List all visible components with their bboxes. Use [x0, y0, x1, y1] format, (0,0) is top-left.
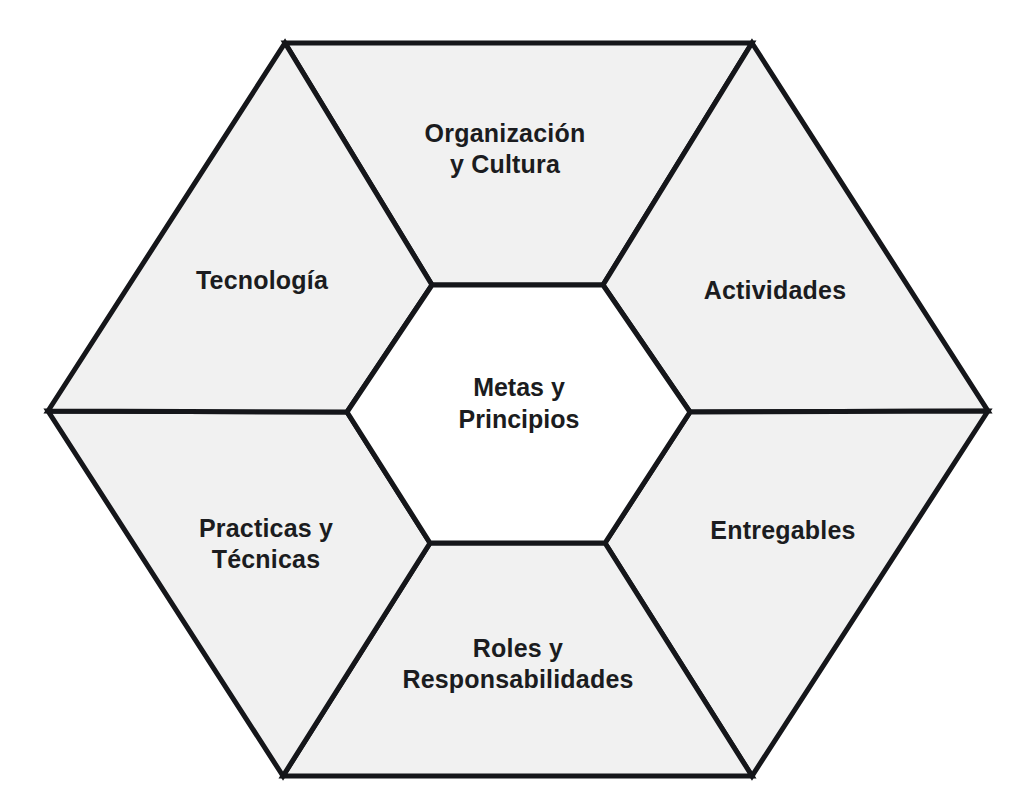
hexagon-diagram-svg — [0, 0, 1029, 809]
hexagon-framework-diagram: Organización y Cultura Actividades Entre… — [0, 0, 1029, 809]
